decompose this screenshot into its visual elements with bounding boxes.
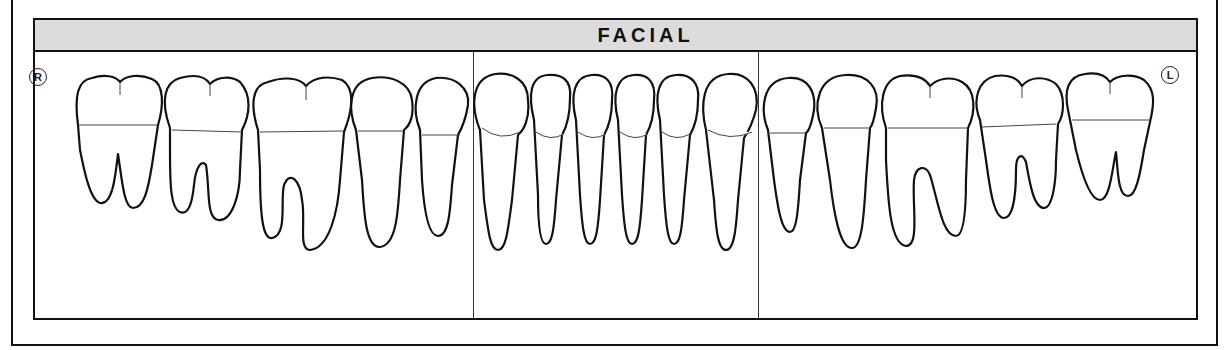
tooth-15[interactable] [976,75,1063,218]
tooth-13[interactable] [817,75,876,248]
tooth-12[interactable] [764,78,814,232]
tooth-10[interactable] [657,75,698,244]
teeth-diagram [0,0,1224,350]
tooth-5[interactable] [416,78,468,236]
tooth-6[interactable] [474,74,528,250]
tooth-14[interactable] [882,75,973,246]
tooth-9[interactable] [615,75,654,244]
tooth-16[interactable] [1067,73,1154,200]
tooth-8[interactable] [573,75,612,244]
tooth-2[interactable] [165,76,249,220]
tooth-1[interactable] [77,76,162,208]
tooth-7[interactable] [531,75,570,244]
tooth-11[interactable] [703,74,757,250]
tooth-3[interactable] [253,78,351,250]
tooth-4[interactable] [351,77,412,247]
